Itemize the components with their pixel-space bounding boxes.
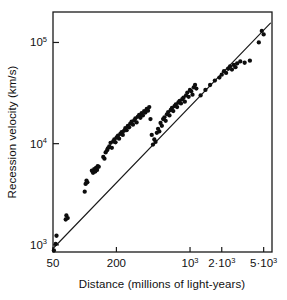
- data-point: [179, 101, 183, 105]
- data-point: [150, 133, 154, 137]
- data-point: [121, 133, 125, 137]
- data-point: [153, 140, 157, 144]
- data-point: [127, 125, 131, 129]
- data-point: [52, 248, 56, 252]
- data-point: [248, 59, 252, 63]
- data-point: [131, 123, 135, 127]
- data-point: [54, 242, 58, 246]
- data-point: [208, 83, 212, 87]
- data-point: [233, 65, 237, 69]
- y-axis-tick-labels: 103104105: [30, 35, 47, 251]
- x-tick-label: 5·103: [250, 256, 277, 270]
- data-point: [113, 140, 117, 144]
- data-point: [148, 117, 152, 121]
- data-point: [238, 59, 242, 63]
- y-tick-label: 104: [30, 136, 47, 150]
- data-point: [224, 71, 228, 75]
- y-tick-label: 103: [30, 237, 47, 251]
- data-point: [257, 40, 261, 44]
- data-point: [243, 61, 247, 65]
- data-point: [203, 88, 207, 92]
- data-point: [190, 93, 194, 97]
- y-tick-label: 105: [30, 35, 47, 49]
- data-point: [97, 165, 101, 169]
- data-point: [164, 119, 168, 123]
- chart-canvas: 502001032·1035·103 103104105 Distance (m…: [0, 0, 287, 300]
- data-point: [147, 105, 151, 109]
- x-tick-label: 2·103: [208, 256, 235, 270]
- data-point: [85, 180, 89, 184]
- data-point: [167, 113, 171, 117]
- data-point: [183, 100, 187, 104]
- data-point: [175, 105, 179, 109]
- data-points-group: [52, 29, 266, 253]
- x-axis-title: Distance (millions of light-years): [79, 278, 245, 290]
- x-tick-label: 50: [47, 257, 60, 269]
- x-axis-tick-labels: 502001032·1035·103: [47, 256, 278, 270]
- data-point: [110, 146, 114, 150]
- hubble-fit-line: [53, 23, 270, 248]
- x-tick-label: 103: [182, 256, 199, 270]
- data-point: [194, 86, 198, 90]
- data-point: [157, 129, 161, 133]
- data-point: [171, 109, 175, 113]
- y-axis-title: Recession velocity (km/s): [6, 66, 18, 199]
- x-axis-ticks: [53, 247, 264, 252]
- y-axis-ticks: [53, 42, 59, 244]
- data-point: [66, 216, 70, 220]
- data-point: [230, 67, 234, 71]
- data-point: [117, 137, 121, 141]
- data-point: [262, 32, 266, 36]
- x-tick-label: 200: [107, 257, 126, 269]
- data-point: [83, 190, 87, 194]
- data-point: [102, 157, 106, 161]
- data-point: [54, 234, 58, 238]
- data-point: [134, 120, 138, 124]
- data-point: [186, 95, 190, 99]
- plot-frame: [53, 12, 272, 252]
- data-point: [213, 78, 217, 82]
- data-point: [160, 124, 164, 128]
- hubble-diagram-figure: 502001032·1035·103 103104105 Distance (m…: [0, 0, 287, 300]
- data-point: [198, 93, 202, 97]
